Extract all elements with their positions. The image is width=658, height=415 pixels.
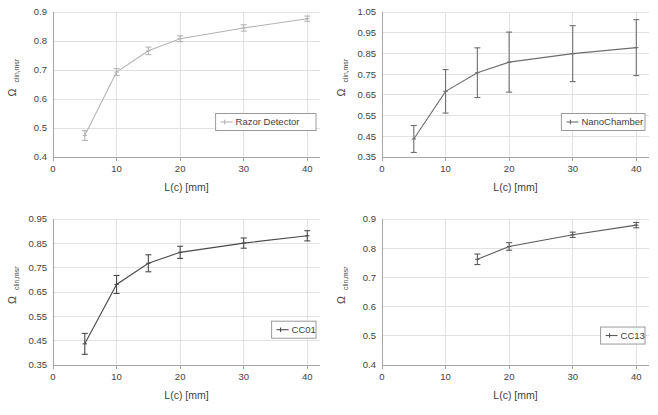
x-tick-label: 20 bbox=[504, 371, 515, 382]
y-tick-label: 0.65 bbox=[29, 286, 48, 297]
x-tick-label: 10 bbox=[440, 163, 451, 174]
y-tick-label: 0.95 bbox=[358, 27, 377, 38]
y-tick-label: 0.8 bbox=[34, 35, 47, 46]
y-tick-label: 0.45 bbox=[29, 335, 48, 346]
y-axis-title: Ωclin,msr bbox=[335, 266, 349, 304]
y-axis-title-symbol: Ω bbox=[6, 296, 18, 304]
y-tick-label: 0.7 bbox=[34, 64, 47, 75]
y-tick-label: 0.4 bbox=[363, 359, 376, 370]
y-tick-label: 0.5 bbox=[363, 330, 376, 341]
y-tick-label: 0.75 bbox=[358, 69, 377, 80]
x-tick-label: 30 bbox=[238, 371, 249, 382]
y-axis-title-subscript: clin,msr bbox=[342, 266, 349, 290]
chart-panel-razor-detector: 0.40.50.60.70.80.9010203040L(c) [mm]Ωcli… bbox=[0, 0, 329, 207]
x-tick-label: 0 bbox=[379, 371, 384, 382]
y-tick-label: 0.9 bbox=[363, 213, 376, 224]
x-tick-label: 10 bbox=[111, 163, 122, 174]
y-tick-labels: 0.40.50.60.70.80.9 bbox=[34, 6, 47, 162]
y-axis-title: Ωclin,msr bbox=[6, 58, 20, 96]
legend-label: CC13 bbox=[621, 330, 645, 341]
x-tick-label: 40 bbox=[631, 163, 642, 174]
legend-cc13[interactable]: CC13 bbox=[601, 327, 645, 344]
x-tick-label: 30 bbox=[567, 371, 578, 382]
y-tick-labels: 0.350.450.550.650.750.850.95 bbox=[29, 213, 48, 370]
series-line-cc13 bbox=[477, 225, 636, 259]
gridlines bbox=[53, 12, 320, 157]
y-tick-label: 0.55 bbox=[29, 311, 48, 322]
legend-razor-detector[interactable]: Razor Detector bbox=[216, 114, 316, 131]
figure-panel-grid: 0.40.50.60.70.80.9010203040L(c) [mm]Ωcli… bbox=[0, 0, 658, 415]
x-axis-title: L(c) [mm] bbox=[164, 389, 208, 401]
legend-label: NanoChamber bbox=[581, 116, 643, 127]
x-tick-labels: 010203040 bbox=[50, 157, 312, 174]
y-axis-title: Ωclin,msr bbox=[6, 266, 20, 304]
y-axis-title-symbol: Ω bbox=[335, 88, 347, 96]
legend-label: CC01 bbox=[292, 324, 316, 335]
x-tick-label: 20 bbox=[504, 163, 515, 174]
x-axis-title: L(c) [mm] bbox=[493, 181, 537, 193]
y-tick-label: 0.35 bbox=[358, 151, 377, 162]
y-tick-label: 0.55 bbox=[358, 110, 377, 121]
x-tick-label: 0 bbox=[379, 163, 384, 174]
x-axis-title: L(c) [mm] bbox=[493, 389, 537, 401]
y-tick-label: 0.8 bbox=[363, 243, 376, 254]
legend-label: Razor Detector bbox=[236, 116, 300, 127]
x-tick-labels: 010203040 bbox=[379, 157, 641, 174]
gridlines bbox=[382, 12, 649, 157]
y-tick-label: 0.6 bbox=[34, 93, 47, 104]
x-tick-label: 20 bbox=[175, 371, 186, 382]
x-tick-label: 10 bbox=[111, 371, 122, 382]
x-axis-title: L(c) [mm] bbox=[164, 181, 208, 193]
y-tick-label: 0.85 bbox=[358, 48, 377, 59]
y-axis-title-subscript: clin,msr bbox=[342, 58, 349, 82]
y-tick-label: 0.95 bbox=[29, 213, 48, 224]
y-tick-label: 0.85 bbox=[29, 238, 48, 249]
chart-panel-nanochamber: 0.350.450.550.650.750.850.951.0501020304… bbox=[329, 0, 658, 207]
y-tick-label: 0.9 bbox=[34, 6, 47, 17]
chart-svg-cc01: 0.350.450.550.650.750.850.95010203040L(c… bbox=[0, 207, 329, 415]
error-bars bbox=[411, 20, 640, 153]
y-tick-label: 0.5 bbox=[34, 122, 47, 133]
chart-panel-cc01: 0.350.450.550.650.750.850.95010203040L(c… bbox=[0, 207, 329, 415]
x-tick-label: 40 bbox=[302, 371, 313, 382]
legend-cc01[interactable]: CC01 bbox=[272, 321, 316, 338]
chart-svg-razor-detector: 0.40.50.60.70.80.9010203040L(c) [mm]Ωcli… bbox=[0, 0, 329, 207]
gridlines bbox=[53, 219, 320, 365]
y-tick-label: 1.05 bbox=[358, 6, 377, 17]
y-axis-title-symbol: Ω bbox=[335, 296, 347, 304]
y-axis-title-subscript: clin,msr bbox=[13, 266, 20, 290]
x-tick-label: 40 bbox=[631, 371, 642, 382]
y-axis-title-symbol: Ω bbox=[6, 88, 18, 96]
y-tick-label: 0.4 bbox=[34, 151, 47, 162]
y-axis-title: Ωclin,msr bbox=[335, 58, 349, 96]
chart-svg-cc13: 0.40.50.60.70.80.9010203040L(c) [mm]Ωcli… bbox=[329, 207, 658, 415]
y-tick-labels: 0.40.50.60.70.80.9 bbox=[363, 213, 376, 370]
x-tick-label: 40 bbox=[302, 163, 313, 174]
x-tick-label: 0 bbox=[50, 163, 55, 174]
y-tick-label: 0.7 bbox=[363, 272, 376, 283]
y-tick-labels: 0.350.450.550.650.750.850.951.05 bbox=[358, 6, 377, 162]
x-tick-label: 30 bbox=[567, 163, 578, 174]
y-axis-title-subscript: clin,msr bbox=[13, 58, 20, 82]
x-tick-labels: 010203040 bbox=[379, 365, 641, 382]
legend-nanochamber[interactable]: NanoChamber bbox=[561, 114, 645, 131]
y-tick-label: 0.6 bbox=[363, 301, 376, 312]
y-tick-label: 0.75 bbox=[29, 262, 48, 273]
y-tick-label: 0.65 bbox=[358, 89, 377, 100]
y-tick-label: 0.35 bbox=[29, 359, 48, 370]
chart-panel-cc13: 0.40.50.60.70.80.9010203040L(c) [mm]Ωcli… bbox=[329, 207, 658, 415]
x-tick-label: 20 bbox=[175, 163, 186, 174]
x-tick-label: 30 bbox=[238, 163, 249, 174]
y-tick-label: 0.45 bbox=[358, 131, 377, 142]
x-tick-label: 0 bbox=[50, 371, 55, 382]
chart-svg-nanochamber: 0.350.450.550.650.750.850.951.0501020304… bbox=[329, 0, 658, 207]
x-tick-label: 10 bbox=[440, 371, 451, 382]
x-tick-labels: 010203040 bbox=[50, 365, 312, 382]
